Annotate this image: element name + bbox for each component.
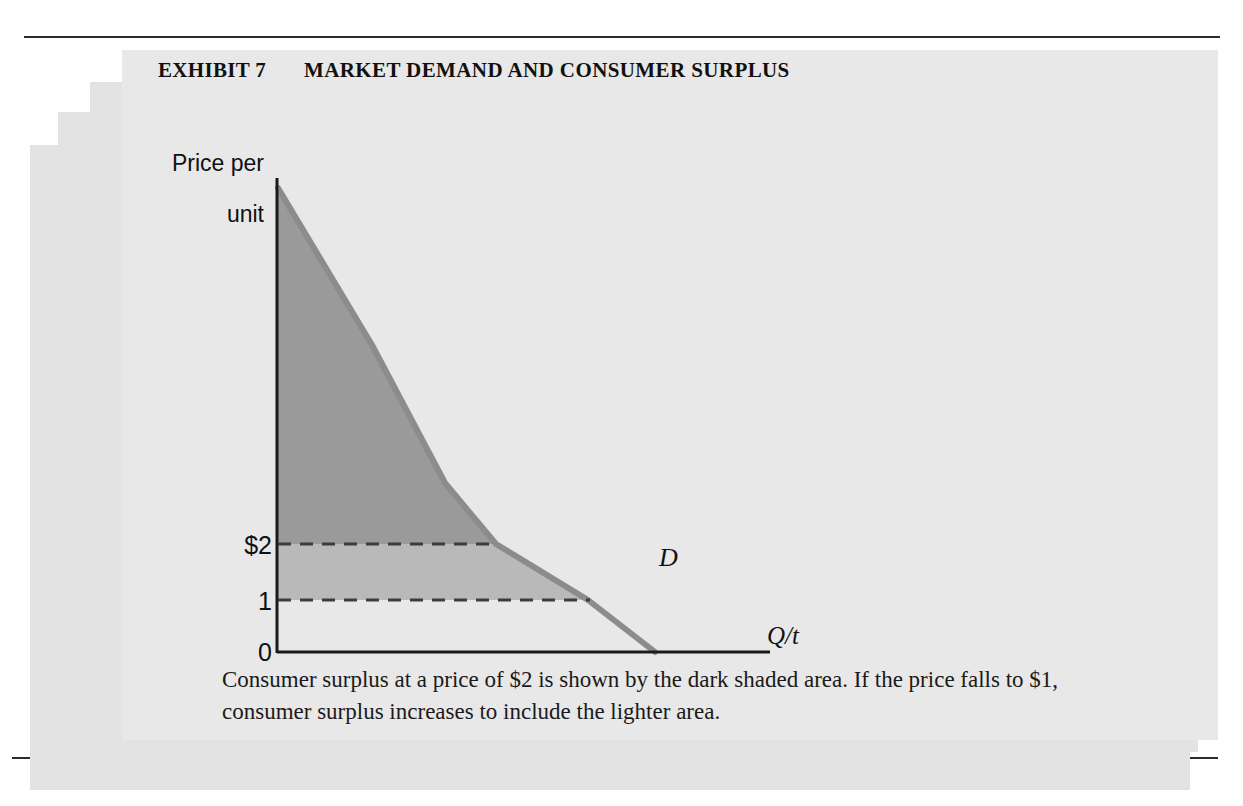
- demand-curve-label: D: [659, 543, 678, 573]
- exhibit-caption: Consumer surplus at a price of $2 is sho…: [222, 664, 1122, 727]
- y-tick-label-2: $2: [192, 531, 272, 560]
- exhibit-card: EXHIBIT 7 MARKET DEMAND AND CONSUMER SUR…: [122, 50, 1218, 740]
- page-rule-top: [24, 36, 1220, 38]
- y-axis-label: Price per unit: [144, 125, 264, 228]
- x-axis-label: Q/t: [767, 622, 799, 650]
- y-axis-label-line2: unit: [227, 201, 264, 227]
- y-tick-label-0: 0: [192, 638, 272, 667]
- y-tick-label-1: 1: [192, 587, 272, 616]
- demand-curve-chart: [122, 50, 1218, 740]
- chart-plot-area: [122, 50, 1218, 740]
- y-axis-label-line1: Price per: [172, 150, 264, 176]
